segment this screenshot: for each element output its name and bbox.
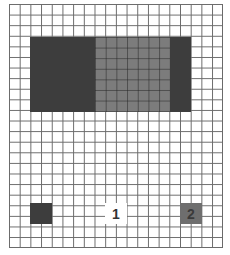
dark-block-left xyxy=(30,37,94,112)
square-2: 2 xyxy=(180,203,201,224)
medium-block-center xyxy=(95,37,170,112)
dark-block-right xyxy=(170,37,191,112)
grid-canvas: 1 2 xyxy=(9,4,223,248)
label-1-text: 1 xyxy=(112,206,120,222)
label-1: 1 xyxy=(105,203,126,224)
small-square-left xyxy=(30,203,51,224)
square-2-text: 2 xyxy=(187,206,195,222)
